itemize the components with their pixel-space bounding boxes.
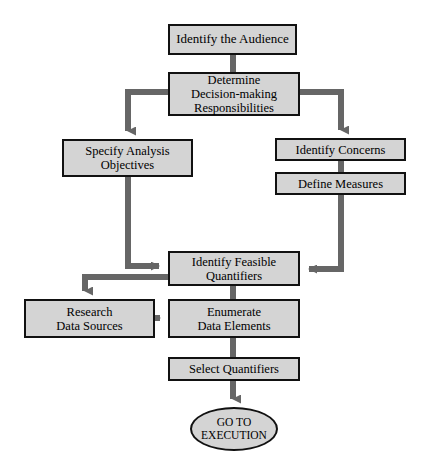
edge-determine-to-specify	[128, 92, 168, 131]
flowchart-canvas: Identify the Audience Determine Decision…	[0, 0, 426, 469]
node-select-quantifiers-label: Select Quantifiers	[170, 362, 298, 376]
node-identify-concerns-label: Identify Concerns	[277, 143, 404, 157]
node-identify-feasible-quantifiers[interactable]: Identify Feasible Quantifiers	[168, 251, 300, 286]
node-specify-analysis-objectives[interactable]: Specify Analysis Objectives	[62, 139, 193, 177]
node-specify-analysis-objectives-label: Specify Analysis Objectives	[64, 144, 191, 172]
node-define-measures[interactable]: Define Measures	[275, 172, 406, 195]
node-identify-feasible-quantifiers-label: Identify Feasible Quantifiers	[170, 255, 298, 283]
node-identify-audience-label: Identify the Audience	[170, 32, 295, 47]
node-go-to-execution[interactable]: GO TO EXECUTION	[190, 407, 278, 451]
node-go-to-execution-label: GO TO EXECUTION	[192, 416, 276, 441]
edge-feasible-to-research	[85, 277, 168, 291]
node-research-data-sources[interactable]: Research Data Sources	[24, 299, 155, 338]
node-select-quantifiers[interactable]: Select Quantifiers	[168, 357, 300, 381]
node-identify-concerns[interactable]: Identify Concerns	[275, 138, 406, 161]
node-determine-responsibilities-label: Determine Decision-making Responsibiliti…	[170, 73, 298, 115]
node-identify-audience[interactable]: Identify the Audience	[168, 24, 297, 55]
edge-measures-to-feasible	[309, 195, 341, 269]
node-enumerate-data-elements-label: Enumerate Data Elements	[170, 305, 298, 333]
node-enumerate-data-elements[interactable]: Enumerate Data Elements	[168, 299, 300, 338]
node-determine-responsibilities[interactable]: Determine Decision-making Responsibiliti…	[168, 72, 300, 116]
edge-specify-to-feasible	[128, 177, 159, 266]
node-research-data-sources-label: Research Data Sources	[26, 305, 153, 333]
edge-determine-to-concerns	[300, 92, 341, 130]
node-define-measures-label: Define Measures	[277, 177, 404, 191]
connector-layer	[0, 0, 426, 469]
